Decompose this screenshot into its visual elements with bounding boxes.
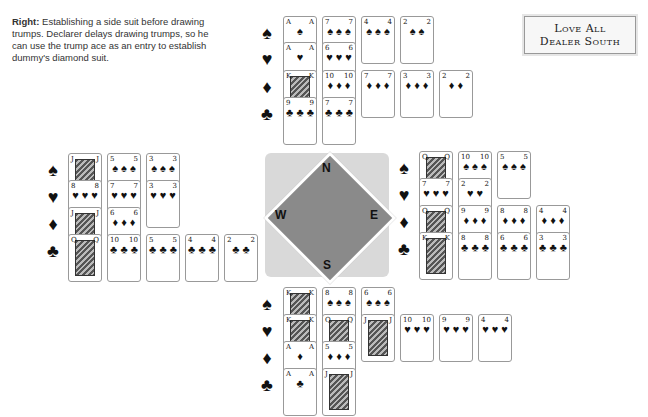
card-rank: 2 bbox=[427, 19, 431, 26]
card-rank: A bbox=[286, 19, 291, 26]
card-rank: 8 bbox=[461, 235, 465, 242]
south-diamonds-suit-icon: ♦ bbox=[256, 349, 278, 367]
hearts-pip-icon: ♥ ♥ ♥ bbox=[323, 51, 355, 63]
east-card-clubs-K: KK bbox=[419, 232, 453, 280]
card-rank: 9 bbox=[485, 208, 489, 215]
card-rank: 2 bbox=[485, 181, 489, 188]
card-rank: Q bbox=[325, 317, 331, 324]
card-rank: K bbox=[309, 290, 314, 297]
north-card-spades-4: ♠ ♠ ♠44 bbox=[361, 16, 395, 64]
east-card-clubs-8: ♣ ♣ ♣88 bbox=[458, 232, 492, 280]
card-rank: 4 bbox=[505, 317, 509, 324]
card-rank: 2 bbox=[227, 237, 231, 244]
card-rank: 4 bbox=[481, 317, 485, 324]
card-rank: 7 bbox=[364, 73, 368, 80]
card-rank: 3 bbox=[173, 156, 177, 163]
hearts-pip-icon: ♥ ♥ ♥ bbox=[108, 189, 140, 201]
north-spades-suit-icon: ♠ bbox=[256, 24, 278, 42]
card-rank: J bbox=[325, 371, 328, 378]
card-rank: 9 bbox=[442, 317, 446, 324]
card-rank: 7 bbox=[134, 183, 138, 190]
card-rank: Q bbox=[422, 154, 428, 161]
card-rank: 8 bbox=[325, 290, 329, 297]
vulnerability-label: Love All bbox=[554, 22, 605, 35]
diamonds-pip-icon: ♦ ♦ bbox=[440, 79, 472, 91]
north-card-diamonds-2: ♦ ♦22 bbox=[439, 70, 473, 118]
north-diamonds-suit-icon: ♦ bbox=[256, 78, 278, 96]
clubs-pip-icon: ♣ ♣ ♣ bbox=[459, 241, 491, 253]
spades-pip-icon: ♠ ♠ ♠ bbox=[498, 160, 530, 172]
dealer-label: Dealer South bbox=[540, 35, 620, 48]
south-hearts-suit-icon: ♥ bbox=[256, 322, 278, 340]
hearts-pip-icon: ♥ ♥ bbox=[459, 187, 491, 199]
south-card-clubs-J: JJ bbox=[322, 368, 356, 416]
face-card-art bbox=[426, 238, 446, 274]
hearts-pip-icon: ♥ ♥ ♥ bbox=[69, 189, 101, 201]
diamonds-pip-icon: ♦ ♦ ♦ bbox=[108, 216, 140, 228]
card-rank: 8 bbox=[524, 208, 528, 215]
spades-pip-icon: ♠ bbox=[284, 25, 316, 37]
card-rank: A bbox=[286, 45, 291, 52]
card-rank: 3 bbox=[403, 73, 407, 80]
card-rank: 2 bbox=[251, 237, 255, 244]
card-rank: 8 bbox=[71, 183, 75, 190]
card-rank: K bbox=[286, 290, 291, 297]
card-rank: 3 bbox=[149, 156, 153, 163]
card-rank: 3 bbox=[563, 235, 567, 242]
card-rank: J bbox=[71, 210, 74, 217]
card-rank: K bbox=[422, 235, 427, 242]
card-rank: 3 bbox=[427, 73, 431, 80]
card-rank: Q bbox=[93, 237, 99, 244]
diamonds-pip-icon: ♦ ♦ ♦ bbox=[323, 350, 355, 362]
south-card-hearts-9: ♥ ♥ ♥99 bbox=[439, 314, 473, 362]
card-rank: 5 bbox=[325, 344, 329, 351]
card-rank: 10 bbox=[325, 73, 334, 80]
card-rank: 6 bbox=[364, 290, 368, 297]
clubs-pip-icon: ♣ ♣ ♣ bbox=[186, 243, 218, 255]
card-rank: 5 bbox=[173, 237, 177, 244]
diamonds-pip-icon: ♦ ♦ ♦ bbox=[362, 79, 394, 91]
west-diamonds-suit-icon: ♦ bbox=[42, 215, 64, 233]
card-rank: A bbox=[309, 45, 314, 52]
clubs-pip-icon: ♣ ♣ ♣ bbox=[147, 243, 179, 255]
card-rank: J bbox=[364, 317, 367, 324]
card-rank: 6 bbox=[500, 235, 504, 242]
compass-north: N bbox=[322, 161, 331, 175]
card-rank: Q bbox=[444, 154, 450, 161]
diamonds-pip-icon: ♦ bbox=[284, 350, 316, 362]
diamonds-pip-icon: ♦ ♦ ♦ bbox=[498, 214, 530, 226]
west-card-hearts-3: ♥ ♥ ♥33 bbox=[146, 180, 180, 228]
diamonds-pip-icon: ♦ ♦ ♦ bbox=[323, 79, 355, 91]
clubs-pip-icon: ♣ ♣ bbox=[225, 243, 257, 255]
card-rank: 6 bbox=[134, 210, 138, 217]
west-clubs-suit-icon: ♣ bbox=[42, 242, 64, 260]
north-card-clubs-7: ♣ ♣ ♣77 bbox=[322, 97, 356, 145]
card-rank: 5 bbox=[500, 154, 504, 161]
clubs-pip-icon: ♣ ♣ ♣ bbox=[537, 241, 569, 253]
spades-pip-icon: ♠ ♠ ♠ bbox=[108, 162, 140, 174]
card-rank: 5 bbox=[149, 237, 153, 244]
north-card-spades-2: ♠ ♠22 bbox=[400, 16, 434, 64]
card-rank: J bbox=[96, 210, 99, 217]
west-spades-suit-icon: ♠ bbox=[42, 161, 64, 179]
west-card-clubs-4: ♣ ♣ ♣44 bbox=[185, 234, 219, 282]
card-rank: 6 bbox=[388, 290, 392, 297]
spades-pip-icon: ♠ ♠ ♠ bbox=[459, 160, 491, 172]
south-clubs-suit-icon: ♣ bbox=[256, 376, 278, 394]
card-rank: 6 bbox=[349, 45, 353, 52]
card-rank: 9 bbox=[286, 100, 290, 107]
caption-lead: Right: bbox=[12, 16, 39, 27]
hearts-pip-icon: ♥ ♥ ♥ bbox=[420, 187, 452, 199]
hearts-pip-icon: ♥ bbox=[284, 51, 316, 63]
east-spades-suit-icon: ♠ bbox=[393, 159, 415, 177]
card-rank: K bbox=[286, 73, 291, 80]
east-card-spades-5: ♠ ♠ ♠55 bbox=[497, 151, 531, 199]
south-card-hearts-4: ♥ ♥ ♥44 bbox=[478, 314, 512, 362]
card-rank: 7 bbox=[325, 19, 329, 26]
card-rank: 7 bbox=[325, 100, 329, 107]
card-rank: A bbox=[309, 344, 314, 351]
west-card-clubs-2: ♣ ♣22 bbox=[224, 234, 258, 282]
card-rank: 10 bbox=[480, 154, 489, 161]
west-hearts-suit-icon: ♥ bbox=[42, 188, 64, 206]
card-rank: 4 bbox=[364, 19, 368, 26]
